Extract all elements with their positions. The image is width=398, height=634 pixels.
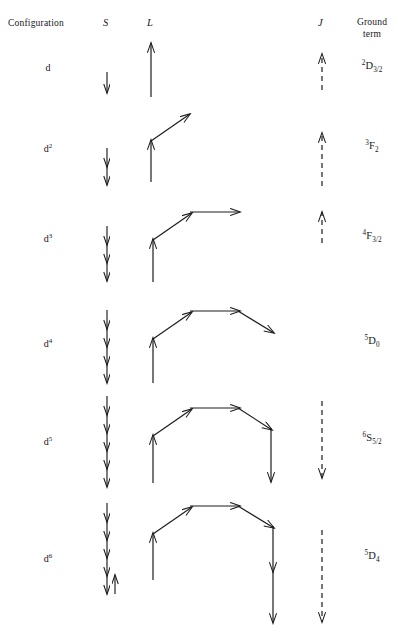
orbital-segment-diag-up-right [153,213,192,240]
orbital-segment-diag-down-right [238,311,274,333]
vector-arrows-layer [0,0,398,634]
spin-arrows-row5 [107,503,115,594]
orbital-chain-row5 [153,506,274,623]
orbital-chain-row3 [153,311,274,383]
orbital-segment-diag-down-right [238,506,274,528]
orbital-chain-row4 [153,408,272,483]
orbital-segment-diag-up-right [151,114,190,141]
vector-model-figure: Configuration S L J Ground term d d2 d3 … [0,0,398,634]
orbital-segment-diag-down-right [238,408,272,430]
orbital-segment-diag-up-right [153,312,192,339]
orbital-chain-row1 [151,114,190,182]
orbital-chain-row2 [153,212,240,282]
orbital-segment-diag-up-right [153,507,192,534]
orbital-segment-diag-up-right [153,409,192,436]
